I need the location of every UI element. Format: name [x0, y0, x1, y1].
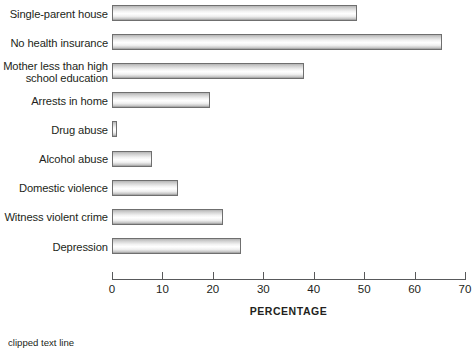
x-axis-tick-label: 50: [344, 283, 384, 295]
bar: [112, 92, 210, 108]
bar: [112, 121, 117, 137]
bar-wrapper: [112, 34, 442, 50]
bar: [112, 209, 223, 225]
bar-category-label: Arrests in home: [0, 95, 108, 108]
x-axis-tick-label: 10: [142, 283, 182, 295]
x-axis-tick: [263, 272, 264, 280]
bar-wrapper: [112, 209, 223, 225]
x-axis-tick-label: 70: [445, 283, 476, 295]
x-axis-title: PERCENTAGE: [112, 305, 465, 317]
bar: [112, 63, 304, 79]
x-axis-tick: [364, 272, 365, 280]
x-axis-tick: [415, 272, 416, 280]
x-axis-tick-label: 30: [243, 283, 283, 295]
x-axis-tick: [465, 272, 466, 280]
x-axis-tick: [112, 272, 113, 280]
bar-category-label: Mother less than high school education: [0, 60, 108, 85]
bar-category-label: Single-parent house: [0, 8, 108, 21]
bar-row: Witness violent crime: [0, 209, 476, 227]
bar-category-label: Drug abuse: [0, 124, 108, 137]
bar-category-label: Domestic violence: [0, 182, 108, 195]
x-axis-tick: [162, 272, 163, 280]
bar-category-label: Depression: [0, 241, 108, 254]
figure-caption-clipped: clipped text line: [8, 338, 476, 349]
bar-wrapper: [112, 238, 241, 254]
bar: [112, 34, 442, 50]
bar-row: Drug abuse: [0, 121, 476, 139]
bar-wrapper: [112, 5, 357, 21]
bar: [112, 180, 178, 196]
bar: [112, 238, 241, 254]
bar-row: Single-parent house: [0, 5, 476, 23]
x-axis-tick-label: 0: [92, 283, 132, 295]
bar-wrapper: [112, 151, 152, 167]
bar-row: Mother less than high school education: [0, 63, 476, 81]
x-axis-tick: [314, 272, 315, 280]
bar-row: Domestic violence: [0, 180, 476, 198]
chart-figure: Single-parent houseNo health insuranceMo…: [0, 0, 476, 349]
bar: [112, 151, 152, 167]
bar-row: Alcohol abuse: [0, 151, 476, 169]
bar-category-label: Alcohol abuse: [0, 153, 108, 166]
bar-wrapper: [112, 121, 117, 137]
bar: [112, 5, 357, 21]
bar-row: No health insurance: [0, 34, 476, 52]
bar-chart-plot-area: Single-parent houseNo health insuranceMo…: [0, 0, 476, 300]
x-axis-tick-label: 40: [294, 283, 334, 295]
x-axis-tick-label: 60: [395, 283, 435, 295]
x-axis-tick: [213, 272, 214, 280]
x-axis-tick-label: 20: [193, 283, 233, 295]
bar-row: Depression: [0, 238, 476, 256]
bar-row: Arrests in home: [0, 92, 476, 110]
bar-wrapper: [112, 63, 304, 79]
bar-category-label: No health insurance: [0, 37, 108, 50]
bar-wrapper: [112, 180, 178, 196]
bar-category-label: Witness violent crime: [0, 211, 108, 224]
bar-wrapper: [112, 92, 210, 108]
caption-text: clipped text line: [8, 338, 476, 348]
x-axis-line: [112, 279, 465, 280]
